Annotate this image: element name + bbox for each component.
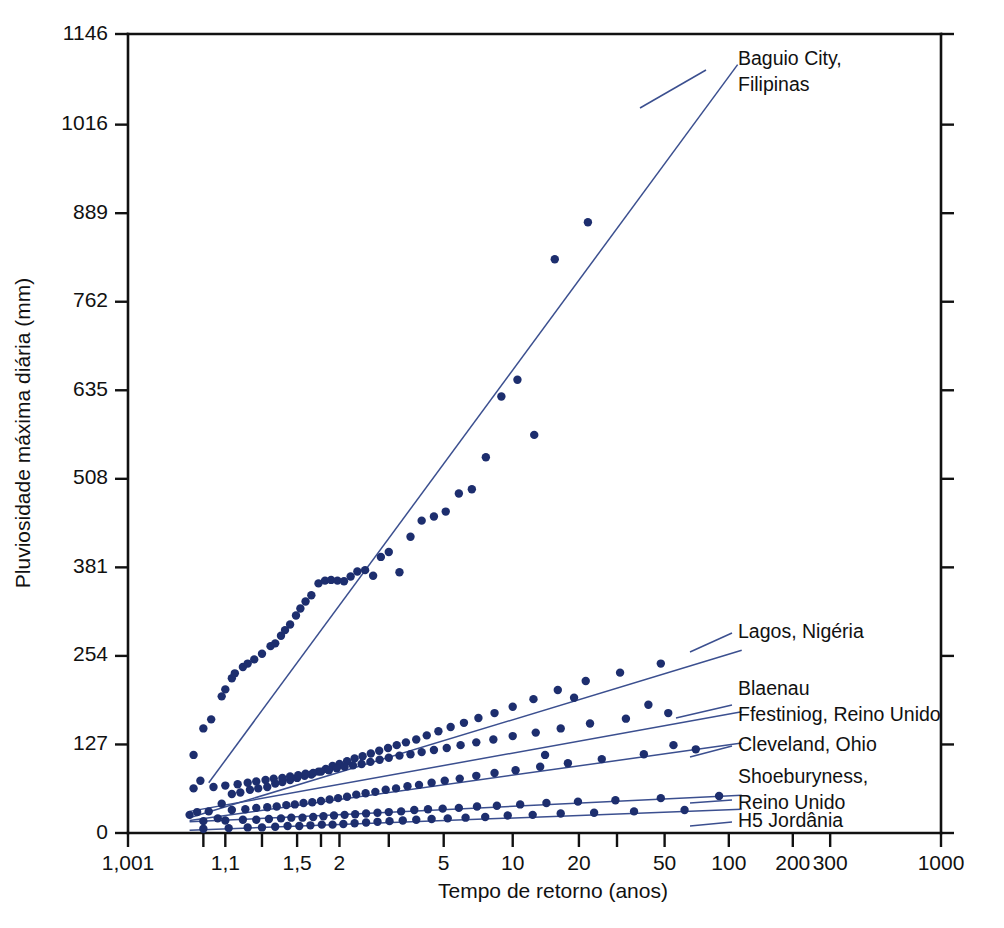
data-point: [455, 804, 463, 812]
data-point: [185, 811, 193, 819]
data-point: [250, 655, 258, 663]
data-point: [410, 806, 418, 814]
data-point: [497, 392, 505, 400]
series-label: Ffestiniog, Reino Unido: [738, 703, 941, 725]
data-point: [373, 809, 381, 817]
data-point: [189, 751, 197, 759]
series-label: H5 Jordânia: [738, 809, 843, 831]
data-point: [564, 759, 572, 767]
data-point: [371, 788, 379, 796]
data-point: [209, 783, 217, 791]
data-point: [189, 784, 197, 792]
data-point: [630, 807, 638, 815]
data-point: [233, 780, 241, 788]
x-tick-label: 300: [813, 851, 848, 874]
x-axis-title: Tempo de retorno (anos): [438, 879, 668, 902]
data-point: [557, 724, 565, 732]
data-point: [513, 376, 521, 384]
data-point: [340, 811, 348, 819]
leader-line-5: [690, 822, 732, 826]
y-axis-title: Pluviosidade máxima diária (mm): [11, 278, 34, 588]
data-point: [328, 820, 336, 828]
data-point: [241, 805, 249, 813]
data-point: [557, 809, 565, 817]
x-tick-label: 50: [653, 851, 676, 874]
data-point: [616, 668, 624, 676]
data-point: [598, 755, 606, 763]
data-point: [218, 800, 226, 808]
data-point: [317, 767, 325, 775]
data-point: [318, 820, 326, 828]
data-point: [309, 813, 317, 821]
data-point: [252, 804, 260, 812]
data-point: [509, 703, 517, 711]
data-point: [325, 795, 333, 803]
data-point: [444, 814, 452, 822]
data-point: [352, 790, 360, 798]
data-point: [367, 749, 375, 757]
data-point: [489, 735, 497, 743]
data-point: [516, 800, 524, 808]
data-point: [542, 799, 550, 807]
data-point: [406, 532, 414, 540]
data-point: [590, 809, 598, 817]
data-point: [430, 746, 438, 754]
data-point: [350, 819, 358, 827]
data-point: [385, 808, 393, 816]
data-point: [271, 639, 279, 647]
data-point: [330, 811, 338, 819]
data-point: [461, 813, 469, 821]
data-point: [395, 751, 403, 759]
data-point: [306, 821, 314, 829]
data-point: [490, 769, 498, 777]
data-point: [424, 805, 432, 813]
data-point: [350, 754, 358, 762]
data-point: [456, 741, 464, 749]
data-point: [307, 591, 315, 599]
data-point: [286, 772, 294, 780]
data-point: [214, 814, 222, 822]
data-point: [509, 732, 517, 740]
data-point: [532, 728, 540, 736]
data-point: [301, 770, 309, 778]
data-point: [395, 568, 403, 576]
data-point: [490, 709, 498, 717]
data-point: [554, 686, 562, 694]
data-point: [680, 806, 688, 814]
data-point: [317, 797, 325, 805]
data-point: [199, 825, 207, 833]
data-point: [423, 731, 431, 739]
data-point: [269, 774, 277, 782]
data-point: [460, 719, 468, 727]
data-point: [412, 816, 420, 824]
data-point: [309, 769, 317, 777]
x-tick-label: 1000: [918, 851, 965, 874]
data-point: [196, 777, 204, 785]
data-point: [278, 774, 286, 782]
data-point: [265, 815, 273, 823]
series-label: Lagos, Nigéria: [738, 620, 864, 642]
data-point: [349, 761, 357, 769]
chart-figure: 012725438150863576288910161146 1,0011,11…: [0, 0, 1004, 928]
trend-line-group: [190, 65, 742, 831]
data-point: [261, 776, 269, 784]
series-label: Baguio City,: [738, 47, 842, 69]
data-point: [443, 744, 451, 752]
data-point: [455, 489, 463, 497]
data-point: [403, 782, 411, 790]
data-point: [292, 611, 300, 619]
data-point: [692, 745, 700, 753]
data-point: [417, 748, 425, 756]
data-point: [375, 747, 383, 755]
data-point: [271, 823, 279, 831]
data-point: [393, 741, 401, 749]
data-point: [373, 818, 381, 826]
data-point: [474, 714, 482, 722]
series-label-group: Baguio City,FilipinasLagos, NigériaBlaen…: [738, 47, 941, 831]
y-tick-label: 127: [73, 731, 108, 754]
data-point: [346, 572, 354, 580]
data-point: [657, 659, 665, 667]
data-point: [415, 781, 423, 789]
data-point: [221, 816, 229, 824]
data-point: [361, 566, 369, 574]
